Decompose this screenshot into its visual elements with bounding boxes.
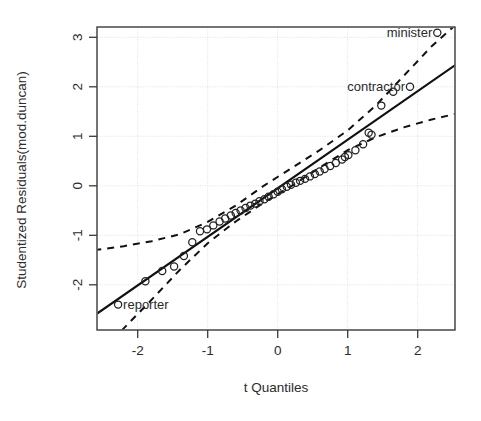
qq-plot-figure: 3 2 1 0 -1 -2 -2 -1 0 1 2 t Quantiles St… — [0, 0, 481, 421]
x-tick-label: 1 — [344, 343, 352, 358]
y-tick-label: -2 — [71, 279, 86, 291]
x-axis-title: t Quantiles — [244, 380, 309, 395]
data-point — [352, 147, 359, 154]
y-tick-label: 2 — [71, 83, 86, 91]
y-tick-label: 3 — [71, 34, 86, 42]
data-point — [434, 29, 441, 36]
data-point — [115, 301, 122, 308]
y-tick-label: -1 — [71, 229, 86, 241]
data-point — [189, 239, 196, 246]
y-axis-title: Studentized Residuals(mod.duncan) — [14, 71, 29, 289]
outlier-label-minister: minister — [387, 25, 433, 40]
y-axis-ticks — [89, 37, 97, 284]
data-point — [171, 263, 178, 270]
x-axis-ticks — [138, 330, 418, 338]
outlier-label-reporter: reporter — [123, 297, 169, 312]
y-tick-label: 1 — [71, 133, 86, 141]
x-tick-label: 2 — [414, 343, 422, 358]
y-tick-label: 0 — [71, 182, 86, 190]
plot-canvas: 3 2 1 0 -1 -2 -2 -1 0 1 2 t Quantiles St… — [0, 0, 481, 421]
outlier-label-contractor: contractor — [347, 79, 405, 94]
x-axis-tick-labels: -2 -1 0 1 2 — [132, 343, 422, 358]
y-axis-tick-labels: 3 2 1 0 -1 -2 — [71, 34, 86, 291]
x-tick-label: -1 — [202, 343, 214, 358]
data-point — [378, 102, 385, 109]
x-tick-label: -2 — [132, 343, 144, 358]
x-tick-label: 0 — [274, 343, 282, 358]
data-point — [196, 228, 203, 235]
